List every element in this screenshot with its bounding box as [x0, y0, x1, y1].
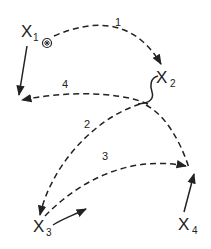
edge-1: 1	[54, 16, 161, 64]
node-x4-subscript: 4	[192, 225, 198, 236]
node-x2-subscript: 2	[170, 78, 176, 89]
x3-out-arrow	[53, 209, 86, 225]
node-x3-subscript: 3	[46, 227, 52, 238]
node-x1-subscript: 1	[33, 32, 39, 43]
x1-down-arrow	[19, 46, 27, 95]
edge-4: 4	[22, 78, 148, 104]
edge-3-label: 3	[102, 150, 108, 162]
x4-up-arrow	[184, 174, 194, 212]
edge-1-label: 1	[115, 16, 121, 28]
self-loop-connector	[138, 76, 158, 104]
node-x1: X 1	[21, 22, 39, 43]
node-x3: X 3	[33, 217, 52, 238]
node-x1-label: X	[21, 22, 32, 41]
node-x2-label: X	[156, 68, 167, 87]
node-x4: X 4	[178, 215, 198, 236]
node-x3-label: X	[33, 217, 44, 236]
transition-diagram: X 1 X 2 X 3 X 4 1 4 2 3	[0, 0, 211, 249]
edge-2: 2	[40, 104, 189, 215]
node-x2: X 2	[156, 68, 176, 89]
edge-4-label: 4	[62, 78, 68, 90]
start-marker-icon	[43, 39, 52, 48]
edge-2-label: 2	[84, 118, 90, 130]
node-x4-label: X	[178, 215, 189, 234]
edge-2-tail	[146, 105, 189, 168]
